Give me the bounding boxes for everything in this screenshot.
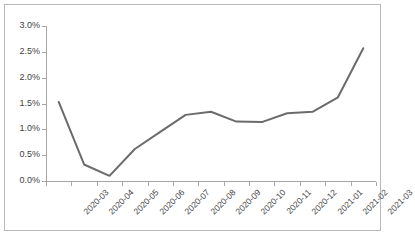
plot-area: 0.0%0.5%1.0%1.5%2.0%2.5%3.0% 2020-032020… <box>5 5 382 232</box>
series-line-path <box>59 48 364 176</box>
chart-frame: 0.0%0.5%1.0%1.5%2.0%2.5%3.0% 2020-032020… <box>4 4 381 231</box>
x-tick-label: 2021-03 <box>386 188 414 216</box>
series-chart-svg <box>5 5 382 232</box>
